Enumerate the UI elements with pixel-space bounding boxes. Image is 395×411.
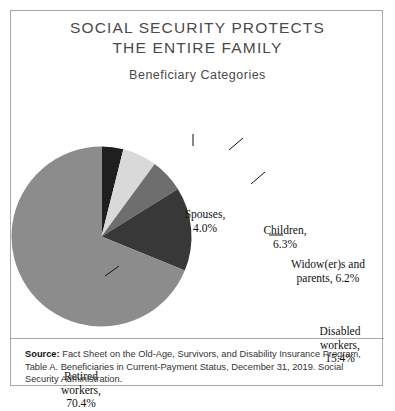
chart-subtitle: Beneficiary Categories [0, 68, 395, 82]
pie-label-children-line1: Children, [242, 224, 328, 238]
source-note: Source: Fact Sheet on the Old-Age, Survi… [25, 348, 370, 386]
pie-label-spouses: Spouses, 4.0% [163, 208, 247, 235]
source-label: Source: [25, 349, 60, 359]
title-line-2: THE ENTIRE FAMILY [0, 38, 395, 58]
leader-line-children [229, 138, 243, 150]
pie-label-retired-line3: 70.4% [37, 397, 125, 411]
pie-label-disabled-line1: Disabled [294, 325, 386, 339]
title-line-1: SOCIAL SECURITY PROTECTS [0, 18, 395, 38]
pie-slice-group [12, 147, 192, 327]
footer-divider [11, 338, 384, 339]
pie-label-children: Children, 6.3% [242, 224, 328, 251]
pie-label-widowers-line1: Widow(er)s and [265, 258, 391, 272]
pie-label-widowers: Widow(er)s and parents, 6.2% [265, 258, 391, 285]
pie-label-spouses-line1: Spouses, [163, 208, 247, 222]
pie-label-widowers-line2: parents, 6.2% [265, 272, 391, 286]
source-text: Fact Sheet on the Old-Age, Survivors, an… [25, 349, 361, 384]
page-title: SOCIAL SECURITY PROTECTS THE ENTIRE FAMI… [0, 18, 395, 58]
pie-label-spouses-line2: 4.0% [163, 222, 247, 236]
leader-line-widowers [251, 172, 265, 184]
pie-label-children-line2: 6.3% [242, 238, 328, 252]
pie-chart: Spouses, 4.0% Children, 6.3% Widow(er)s … [11, 100, 384, 337]
